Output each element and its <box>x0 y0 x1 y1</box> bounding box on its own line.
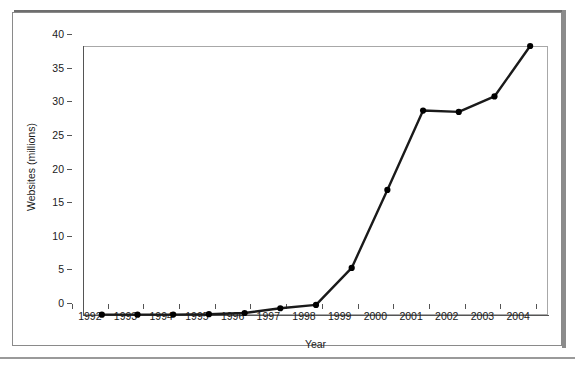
data-point-marker <box>420 107 426 113</box>
data-point-marker <box>170 312 176 318</box>
data-point-marker <box>349 265 355 271</box>
data-point-marker <box>384 187 390 193</box>
data-point-marker <box>277 305 283 311</box>
data-point-marker <box>206 311 212 317</box>
data-point-marker <box>527 43 533 49</box>
figure-card: 0510152025303540 19921993199419951996199… <box>12 12 562 346</box>
data-point-marker <box>456 109 462 115</box>
series-markers-websites <box>99 43 534 318</box>
chart-figure: 0510152025303540 19921993199419951996199… <box>0 0 575 365</box>
data-point-marker <box>99 312 105 318</box>
data-point-marker <box>313 302 319 308</box>
series-line-websites <box>102 46 530 315</box>
data-series-layer <box>13 13 575 365</box>
data-point-marker <box>242 310 248 316</box>
data-point-marker <box>134 312 140 318</box>
data-point-marker <box>491 93 497 99</box>
page-bottom-rule <box>0 357 575 359</box>
